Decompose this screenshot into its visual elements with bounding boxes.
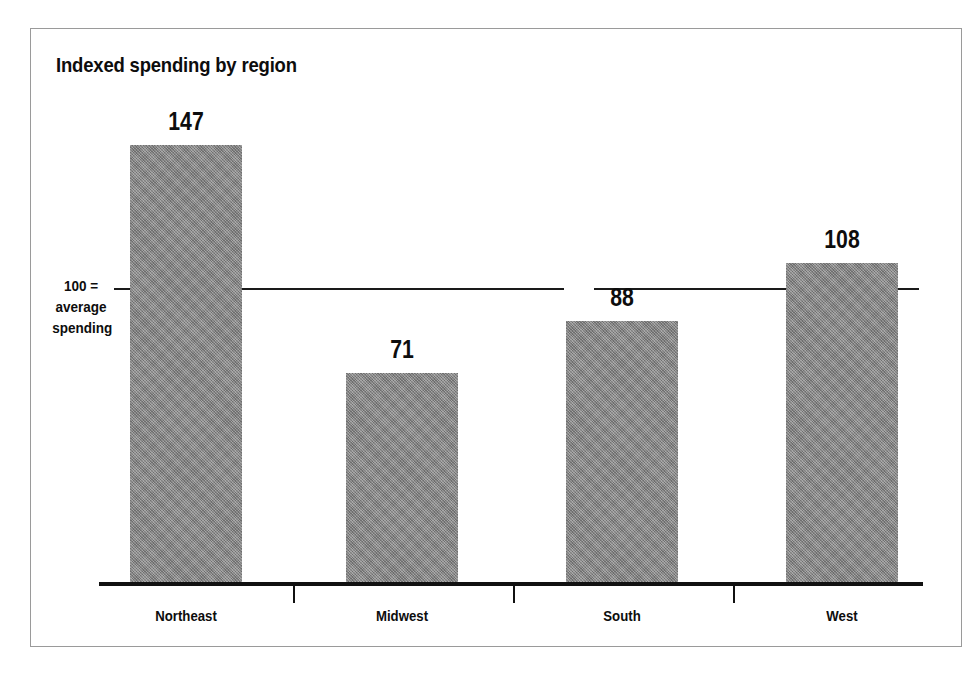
axis-tick-1 (293, 586, 295, 603)
reference-caption-line-1: 100 = (52, 275, 110, 296)
reference-line-caption: 100 = average spending (52, 275, 110, 338)
bar-value-label-west: 108 (794, 225, 889, 254)
plot-area: 100 = average spending 147 Northeast 71 … (31, 29, 963, 648)
reference-line-segment-4 (898, 288, 919, 290)
bar-value-label-south: 88 (574, 283, 669, 312)
category-label-northeast: Northeast (137, 607, 236, 624)
category-label-south: South (573, 607, 672, 624)
bar-south[interactable] (566, 321, 678, 584)
bar-west[interactable] (786, 263, 898, 584)
reference-caption-line-3: spending (52, 317, 110, 338)
reference-line-segment-2 (242, 288, 564, 290)
chart-frame: Indexed spending by region 100 = average… (30, 28, 962, 647)
bar-midwest[interactable] (346, 373, 458, 584)
reference-caption-line-2: average (52, 296, 110, 317)
axis-tick-3 (733, 586, 735, 603)
bar-value-label-northeast: 147 (138, 107, 233, 136)
axis-baseline (99, 582, 923, 586)
axis-tick-2 (513, 586, 515, 603)
category-label-midwest: Midwest (353, 607, 452, 624)
category-label-west: West (793, 607, 892, 624)
bar-northeast[interactable] (130, 145, 242, 584)
bar-value-label-midwest: 71 (354, 335, 449, 364)
